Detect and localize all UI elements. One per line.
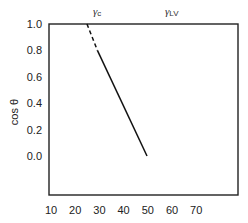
y-tick-label: 1.0 xyxy=(27,18,42,30)
y-tick-label: 0.8 xyxy=(27,44,42,56)
data-series xyxy=(87,24,147,156)
y-tick-label: 0.2 xyxy=(27,124,42,136)
y-axis-label: cos θ xyxy=(8,99,20,125)
x-tick-label: 30 xyxy=(93,204,105,216)
x-tick-label: 50 xyxy=(142,204,154,216)
y-tick-label: 0.0 xyxy=(27,150,42,162)
gamma-c-label: γc xyxy=(93,5,101,18)
contact-angle-chart: 0.00.20.40.60.81.0 10203040506070 γcγLV … xyxy=(0,0,248,223)
y-tick-label: 0.6 xyxy=(27,71,42,83)
x-tick-label: 10 xyxy=(45,204,57,216)
dashed-extrapolation-line xyxy=(87,24,97,50)
x-tick-label: 20 xyxy=(69,204,81,216)
solid-fit-line xyxy=(97,50,147,156)
y-tick-label: 0.4 xyxy=(27,97,42,109)
x-tick-label: 70 xyxy=(190,204,202,216)
plot-frame xyxy=(49,24,238,195)
x-axis-tick-labels: 10203040506070 xyxy=(45,204,202,216)
top-annotations: γcγLV xyxy=(93,5,179,18)
gamma-lv-label: γLV xyxy=(165,5,179,18)
y-axis-tick-labels: 0.00.20.40.60.81.0 xyxy=(27,18,42,162)
x-tick-label: 60 xyxy=(166,204,178,216)
x-tick-label: 40 xyxy=(117,204,129,216)
